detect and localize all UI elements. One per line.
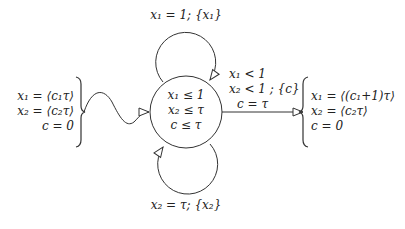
initial-valuation-line-2: x₂ = ⟨c₂τ⟩ (4, 104, 74, 119)
guard-line-1: x₁ < 1 (229, 67, 300, 82)
timed-automaton-diagram: x₁ = 1; {x₁} x₂ = τ; {x₂} x₁ ≤ 1 x₂ ≤ τ … (0, 0, 405, 229)
guard-line-2: x₂ < 1 ; {c} (229, 82, 300, 97)
self-loop-bottom-edge (158, 144, 218, 194)
location-invariant: x₁ ≤ 1 x₂ ≤ τ c ≤ τ (156, 88, 216, 133)
entry-wavy-edge (84, 93, 149, 124)
initial-valuation: x₁ = ⟨c₁τ⟩ x₂ = ⟨c₂τ⟩ c = 0 (4, 89, 74, 134)
final-valuation-line-3: c = 0 (311, 119, 395, 134)
initial-valuation-line-1: x₁ = ⟨c₁τ⟩ (4, 89, 74, 104)
self-loop-bottom-label: x₂ = τ; {x₂} (148, 198, 224, 213)
invariant-line-1: x₁ ≤ 1 (156, 88, 216, 103)
right-brace (299, 77, 308, 147)
final-valuation-line-2: x₂ = ⟨c₂τ⟩ (311, 104, 395, 119)
self-loop-bottom-text: x₂ = τ; {x₂} (148, 198, 224, 213)
self-loop-top-edge (156, 32, 216, 82)
final-valuation: x₁ = ⟨(c₁+1)τ⟩ x₂ = ⟨c₂τ⟩ c = 0 (311, 89, 395, 134)
guard-line-3: c = τ (229, 97, 300, 112)
final-valuation-line-1: x₁ = ⟨(c₁+1)τ⟩ (311, 89, 395, 104)
invariant-line-3: c ≤ τ (156, 118, 216, 133)
exit-edge-guard: x₁ < 1 x₂ < 1 ; {c} c = τ (229, 67, 300, 112)
invariant-line-2: x₂ ≤ τ (156, 103, 216, 118)
self-loop-top-text: x₁ = 1; {x₁} (148, 8, 224, 23)
initial-valuation-line-3: c = 0 (4, 119, 74, 134)
left-brace (76, 77, 85, 147)
self-loop-top-label: x₁ = 1; {x₁} (148, 8, 224, 23)
